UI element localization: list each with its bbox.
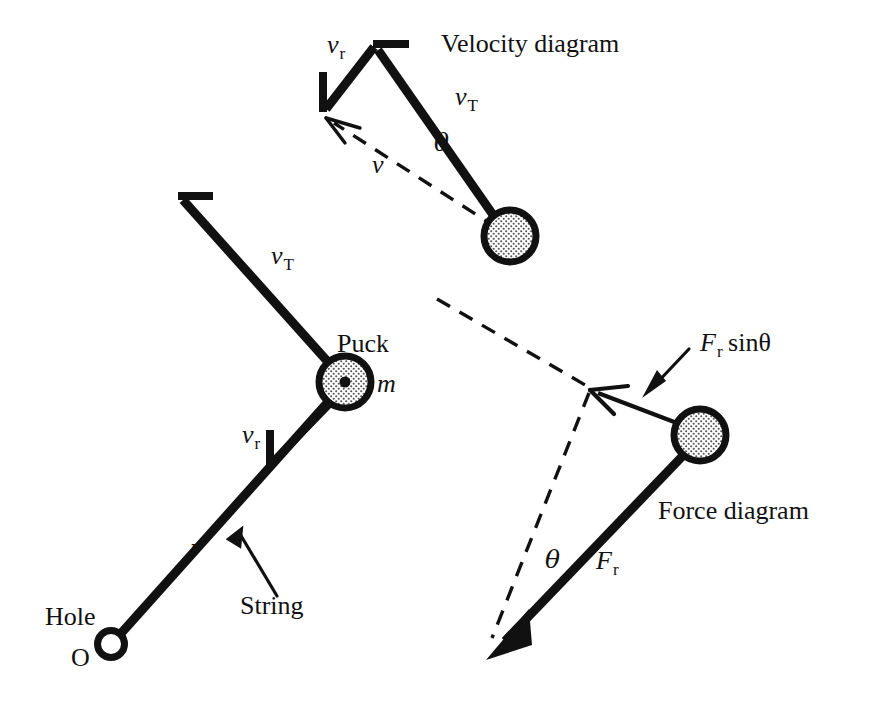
velocity-vr-letter: v [327,30,339,59]
velocity-resultant-label: v [372,152,384,178]
puck-main [319,356,371,408]
origin-label: O [71,645,90,671]
velocity-diagram-group [323,44,536,262]
force-Fr-arrowhead [486,609,532,660]
force-theta-label: θ [545,547,560,572]
velocity-vT-subscript: T [468,96,478,115]
velocity-vT-label: vT [455,84,477,110]
string-callout-line [240,534,277,596]
force-component-label: Fr sinθ [700,330,771,356]
force-Fr-label: Fr [596,548,618,574]
velocity-diagram-title: Velocity diagram [441,31,619,57]
main-vr-label: vr [242,422,259,448]
force-component-arrowhead-a [590,386,628,390]
vel-v-resultant-dashed [334,123,497,228]
force-diagram-title: Force diagram [658,498,809,524]
velocity-vr-label: vr [327,32,344,58]
force-diagram-group [437,299,726,660]
force-Fr-vector [505,441,697,641]
main-vT-vector [183,200,345,381]
main-vr-subscript: r [255,434,261,453]
main-vr-vector [272,396,337,463]
puck-label: Puck [337,331,389,357]
force-component-subscript: r [717,342,723,361]
main-vr-letter: v [242,420,254,449]
string-label: String [240,593,304,619]
force-dashed-upper [437,299,592,389]
mass-label: m [377,371,396,397]
force-component-suffix: sinθ [728,328,771,357]
puck-force [674,409,726,461]
velocity-vT-letter: v [455,82,467,111]
velocity-theta-label: θ [434,130,449,155]
main-vT-label: vT [271,243,293,269]
puck-velocity [484,210,536,262]
radius-label: r [190,535,200,561]
force-component-letter: F [700,328,716,357]
physics-figure: Velocity diagram vr vT θ v vT Puck m vr … [0,0,872,711]
velocity-vr-subscript: r [340,44,346,63]
main-diagram-group [98,196,372,658]
hole-label: Hole [45,604,96,630]
main-vT-subscript: T [284,255,294,274]
force-component-callout-arrowhead [642,370,666,398]
hole-ring-icon [98,631,125,658]
main-vT-letter: v [271,241,283,270]
force-Fr-subscript: r [613,560,619,579]
force-Fr-letter: F [596,546,612,575]
